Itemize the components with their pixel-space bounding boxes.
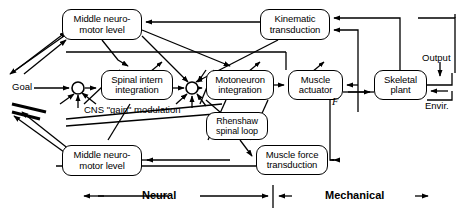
block-label-line1: Rhenshaw bbox=[216, 116, 258, 126]
block-label-line1: Middle neuro- bbox=[74, 150, 131, 161]
wire-F-down bbox=[330, 100, 332, 160]
axis-label-neural: Neural bbox=[142, 189, 176, 201]
block-motoneuron-integration[interactable]: Motoneuron integration bbox=[206, 70, 274, 100]
label-envir: Envir. bbox=[425, 100, 449, 111]
block-skeletal-plant[interactable]: Skeletal plant bbox=[374, 70, 427, 100]
wire-middle-upper-out-left bbox=[10, 36, 64, 74]
block-renshaw-spinal-loop[interactable]: Rhenshaw spinal loop bbox=[206, 112, 268, 140]
wire-heavy-left-a bbox=[12, 104, 46, 112]
axis-label-mechanical: Mechanical bbox=[325, 189, 384, 201]
label-goal: Goal bbox=[12, 81, 32, 92]
wire-envir-in bbox=[427, 91, 452, 100]
wire-skeletal-to-kinematic bbox=[334, 18, 400, 70]
wire-to-sum2-d1 bbox=[197, 94, 206, 106]
wire-middle-upper-to-motoneuron bbox=[142, 30, 230, 66]
summing-junction-2 bbox=[186, 82, 198, 94]
label-output: Output bbox=[422, 52, 451, 63]
block-kinematic-transduction[interactable]: Kinematic transduction bbox=[260, 9, 330, 40]
block-label-line2: integration bbox=[115, 85, 158, 96]
block-label-line2: actuator bbox=[299, 85, 333, 96]
wire-output-bus-top bbox=[418, 18, 455, 73]
wire-renshaw-up bbox=[206, 100, 220, 112]
block-middle-neuromotor-lower[interactable]: Middle neuro- motor level bbox=[62, 145, 142, 176]
wire-middle-lower-out-a bbox=[14, 116, 64, 152]
block-label-line2: motor level bbox=[79, 25, 124, 36]
block-label-line2: motor level bbox=[79, 161, 124, 172]
block-middle-neuromotor-upper[interactable]: Middle neuro- motor level bbox=[62, 9, 142, 40]
block-label-line1: Kinematic bbox=[275, 14, 316, 25]
block-muscle-force-transduction[interactable]: Muscle force transduction bbox=[256, 145, 328, 175]
block-label-line2: plant bbox=[390, 85, 410, 96]
label-force-F: F bbox=[332, 96, 338, 107]
wire-feedback-to-sum1-d2 bbox=[60, 94, 74, 104]
block-spinal-intern-integration[interactable]: Spinal intern integration bbox=[101, 70, 173, 100]
block-label-line1: Middle neuro- bbox=[74, 14, 131, 25]
wire-input-to-middle-upper-b bbox=[24, 40, 66, 74]
wire-cns-rail-bottom bbox=[66, 114, 215, 126]
block-label-line2: spinal loop bbox=[216, 126, 258, 136]
diagram-canvas: Middle neuro- motor level Kinematic tran… bbox=[0, 0, 462, 221]
summing-junction-1 bbox=[72, 82, 84, 94]
block-label-line2: transduction bbox=[270, 25, 321, 36]
label-cns-gain-modulation: CNS "gain" modulation bbox=[84, 104, 181, 115]
wire-to-sum2-d2 bbox=[176, 94, 187, 104]
block-label-line2: integration bbox=[218, 85, 261, 96]
wire-middle-upper-to-spinal bbox=[102, 40, 128, 66]
wire-to-sum2-d3 bbox=[198, 70, 206, 82]
block-label-line2: transduction bbox=[267, 160, 318, 171]
wire-renshaw-to-muscleforce bbox=[240, 140, 252, 156]
